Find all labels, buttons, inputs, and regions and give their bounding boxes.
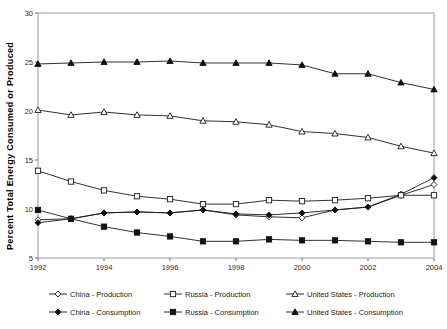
data-point-marker-square-filled (332, 238, 337, 243)
series-united-states-production (35, 107, 437, 156)
x-tick-label: 1998 (228, 263, 245, 272)
series-line (38, 171, 434, 204)
legend-label: United States - Consumption (307, 308, 403, 317)
y-tick-label: 30 (25, 9, 33, 18)
data-point-marker-square-filled (101, 224, 106, 229)
chart-canvas: Percent Total Energy Consumed or Produce… (0, 0, 447, 329)
data-point-marker-diamond-filled (101, 210, 107, 216)
legend-item-china-production[interactable]: China - Production (49, 290, 132, 299)
x-tick-label: 2002 (360, 263, 377, 272)
data-point-marker-square-filled (167, 234, 172, 239)
data-point-marker-square-open (431, 193, 436, 198)
legend-label: Russia - Consumption (185, 308, 259, 317)
data-point-marker-square-open (299, 199, 304, 204)
data-point-marker-diamond-filled (134, 209, 140, 215)
y-tick-label: 10 (25, 205, 33, 214)
data-point-marker-square-open (365, 196, 370, 201)
data-point-marker-square-filled (233, 239, 238, 244)
data-point-marker-square-filled (134, 230, 139, 235)
legend-item-united-states-consumption[interactable]: United States - Consumption (286, 308, 403, 317)
y-tick-label: 25 (25, 58, 33, 67)
data-point-marker-square-open (170, 291, 175, 296)
y-axis-title: Percent Total Energy Consumed or Produce… (5, 42, 15, 250)
series-line (38, 110, 434, 153)
legend-label: China - Production (70, 290, 132, 299)
data-point-marker-diamond-filled (200, 207, 206, 213)
data-point-marker-square-filled (431, 240, 436, 245)
x-axis-ticks: 1992199419961998200020022004 (30, 258, 443, 272)
legend-item-russia-production[interactable]: Russia - Production (164, 290, 250, 299)
data-point-marker-square-open (167, 197, 172, 202)
data-point-marker-square-open (35, 168, 40, 173)
data-point-marker-square-open (200, 201, 205, 206)
legend-item-united-states-production[interactable]: United States - Production (286, 290, 395, 299)
data-point-marker-square-open (68, 179, 73, 184)
y-tick-label: 20 (25, 107, 33, 116)
data-point-marker-square-filled (299, 238, 304, 243)
legend-label: Russia - Production (185, 290, 250, 299)
x-tick-label: 1992 (30, 263, 47, 272)
data-point-marker-diamond-filled (365, 204, 371, 210)
series-united-states-consumption (35, 58, 437, 92)
y-tick-label: 15 (25, 156, 33, 165)
x-tick-label: 2000 (294, 263, 311, 272)
x-tick-label: 1996 (162, 263, 179, 272)
legend-item-china-consumption[interactable]: China - Consumption (49, 308, 140, 317)
data-point-marker-square-filled (398, 240, 403, 245)
data-point-marker-square-filled (68, 216, 73, 221)
series-russia-production (35, 168, 436, 207)
data-point-marker-triangle-open (101, 109, 107, 115)
data-point-marker-square-open (101, 188, 106, 193)
data-point-marker-square-filled (365, 239, 370, 244)
data-point-marker-square-filled (35, 207, 40, 212)
data-point-marker-diamond-open (431, 182, 437, 188)
data-point-marker-square-open (398, 193, 403, 198)
data-point-marker-square-open (233, 201, 238, 206)
legend-label: United States - Production (307, 290, 395, 299)
data-point-marker-diamond-open (55, 291, 61, 297)
series-layer (35, 58, 437, 245)
data-point-marker-diamond-filled (167, 210, 173, 216)
data-point-marker-square-open (134, 194, 139, 199)
data-point-marker-diamond-filled (55, 309, 61, 315)
y-axis-title-text: Percent Total Energy Consumed or Produce… (5, 42, 15, 250)
plot-border (38, 13, 434, 258)
data-point-marker-square-filled (170, 309, 175, 314)
data-point-marker-triangle-open (35, 107, 41, 113)
x-tick-label: 1994 (96, 263, 113, 272)
x-tick-label: 2004 (426, 263, 443, 272)
data-point-marker-diamond-filled (332, 207, 338, 213)
data-point-marker-diamond-filled (431, 175, 437, 181)
y-tick-label: 5 (29, 254, 33, 263)
plot-area-frame (38, 13, 434, 258)
data-point-marker-square-filled (266, 237, 271, 242)
chart-legend: China - ProductionRussia - ProductionUni… (49, 290, 403, 317)
data-point-marker-square-filled (200, 239, 205, 244)
data-point-marker-square-open (332, 198, 337, 203)
energy-share-line-chart: Percent Total Energy Consumed or Produce… (0, 0, 447, 329)
legend-label: China - Consumption (70, 308, 140, 317)
data-point-marker-square-open (266, 198, 271, 203)
legend-item-russia-consumption[interactable]: Russia - Consumption (164, 308, 259, 317)
data-point-marker-diamond-filled (299, 210, 305, 216)
y-axis-ticks: 51015202530 (25, 9, 38, 263)
